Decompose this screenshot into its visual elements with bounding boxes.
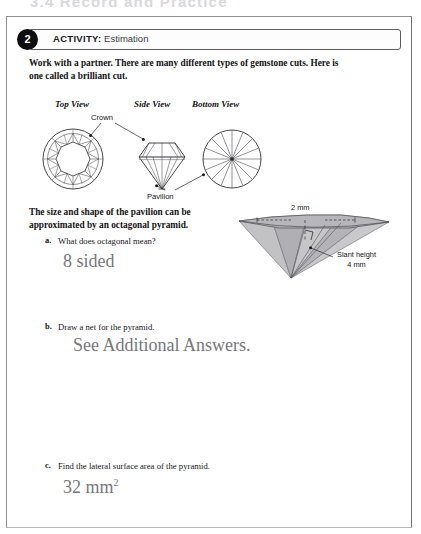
question-b-letter: b.: [45, 322, 52, 331]
bottom-view-diagram: [203, 130, 261, 188]
gemstone-figure: Top View Side View Bottom View Crown Pav…: [29, 87, 279, 205]
question-a-text: What does octagonal mean?: [58, 236, 156, 246]
answer-c-value: 32 mm: [63, 477, 114, 497]
answer-c-exponent: 2: [114, 477, 119, 488]
answer-b: See Additional Answers.: [73, 335, 251, 356]
question-b-text: Draw a net for the pyramid.: [58, 322, 155, 332]
page-running-head: 3.4 Record and Practice: [0, 0, 421, 14]
answer-a: 8 sided: [63, 251, 115, 272]
gemstone-views-drawing: [29, 87, 279, 205]
worksheet-page: 2 ACTIVITY: Estimation Work with a partn…: [6, 16, 412, 528]
side-view-diagram: [139, 143, 185, 189]
activity-number-badge: 2: [17, 29, 38, 50]
octagonal-pyramid-figure: 2 mm Slant height 4 mm: [229, 195, 414, 283]
top-view-diagram: [43, 129, 103, 189]
activity-title: ACTIVITY: Estimation: [53, 33, 148, 44]
intro-paragraph: Work with a partner. There are many diff…: [29, 57, 349, 82]
question-c-letter: c.: [45, 461, 51, 470]
pyramid-body: [239, 215, 389, 278]
activity-subtitle: Estimation: [104, 33, 148, 44]
pavilion-statement: The size and shape of the pavilion can b…: [29, 206, 244, 231]
running-head-text: 3.4 Record and Practice: [30, 0, 228, 10]
pyramid-drawing: [229, 195, 414, 283]
answer-c: 32 mm2: [63, 477, 119, 498]
activity-banner: 2 ACTIVITY: Estimation: [17, 29, 401, 50]
question-c-text: Find the lateral surface area of the pyr…: [58, 461, 210, 471]
activity-keyword: ACTIVITY:: [53, 33, 101, 44]
question-a-letter: a.: [45, 236, 51, 245]
